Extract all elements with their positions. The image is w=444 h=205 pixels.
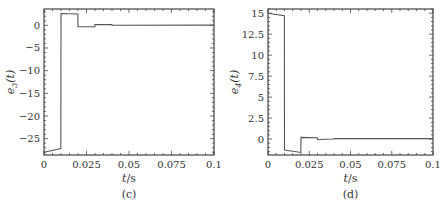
chart-d-svg: 00.0250.050.0750.11512.5107.552.50t/se4(… — [222, 0, 444, 205]
x-tick-label: 0.075 — [377, 159, 406, 170]
y-axis: 1512.5107.552.50 — [242, 8, 433, 152]
x-tick-label: 0.075 — [157, 159, 186, 170]
chart-c-svg: 00.0250.050.0750.10−5−10−15−20−25t/se3(t… — [0, 0, 222, 205]
x-tick-label: 0.025 — [72, 159, 101, 170]
x-tick-label: 0.1 — [425, 159, 441, 170]
x-tick-label: 0.05 — [118, 159, 140, 170]
x-tick-label: 0.05 — [339, 159, 361, 170]
y-tick-label: 15 — [251, 8, 264, 19]
y-tick-label: −20 — [19, 111, 40, 122]
x-tick-label: 0 — [41, 159, 47, 170]
y-axis: 0−5−10−15−20−25 — [19, 12, 214, 153]
y-tick-label: 7.5 — [248, 71, 264, 82]
y-tick-label: −25 — [19, 133, 40, 144]
x-tick-label: 0.025 — [295, 159, 324, 170]
y-axis-label: e3(t) — [4, 70, 19, 95]
plot-frame — [268, 9, 433, 155]
y-tick-label: 2.5 — [248, 113, 264, 124]
x-axis: 00.0250.050.0750.1 — [265, 9, 441, 170]
series-line-e4 — [268, 13, 433, 152]
subfigure-caption: (d) — [343, 188, 359, 201]
y-tick-label: 12.5 — [242, 29, 264, 40]
y-tick-label: −10 — [19, 65, 40, 76]
x-axis-label: t/s — [122, 172, 136, 185]
subfigure-caption: (c) — [122, 188, 137, 201]
y-tick-label: −5 — [25, 42, 40, 53]
chart-panel-d: 00.0250.050.0750.11512.5107.552.50t/se4(… — [222, 0, 444, 205]
x-tick-label: 0 — [265, 159, 271, 170]
x-axis: 00.0250.050.0750.1 — [41, 9, 222, 170]
y-tick-label: −15 — [19, 88, 40, 99]
y-axis-label: e4(t) — [228, 70, 243, 95]
y-tick-label: 0 — [258, 134, 264, 145]
chart-panel-c: 00.0250.050.0750.10−5−10−15−20−25t/se3(t… — [0, 0, 222, 205]
plot-frame — [44, 9, 214, 155]
y-tick-label: 0 — [34, 20, 40, 31]
y-tick-label: 5 — [258, 92, 264, 103]
x-tick-label: 0.1 — [206, 159, 222, 170]
y-tick-label: 10 — [251, 50, 264, 61]
series-line-e3 — [44, 14, 214, 153]
x-axis-label: t/s — [344, 172, 358, 185]
